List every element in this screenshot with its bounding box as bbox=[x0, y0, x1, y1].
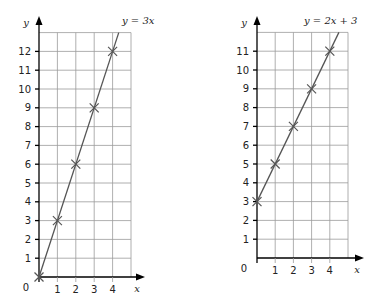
y-tick-label: 6 bbox=[25, 159, 31, 170]
y-tick-label: 6 bbox=[243, 140, 249, 151]
graph-y-equals-3x: 12341234567891011120yxy = 3x bbox=[18, 15, 154, 295]
y-axis-label: y bbox=[240, 17, 247, 28]
y-tick-label: 4 bbox=[25, 196, 31, 207]
x-tick-label: 4 bbox=[327, 265, 333, 276]
equation-label: y = 3x bbox=[121, 15, 155, 26]
grid bbox=[39, 33, 131, 277]
y-tick-label: 9 bbox=[25, 102, 31, 113]
x-tick-label: 1 bbox=[54, 284, 60, 295]
x-axis-label: x bbox=[134, 283, 140, 294]
y-tick-label: 2 bbox=[25, 234, 31, 245]
y-tick-label: 8 bbox=[243, 102, 249, 113]
x-tick-label: 4 bbox=[109, 284, 115, 295]
origin-label: 0 bbox=[23, 282, 29, 293]
x-tick-label: 3 bbox=[91, 284, 97, 295]
y-tick-label: 5 bbox=[243, 159, 249, 170]
x-axis-arrow-icon bbox=[136, 274, 145, 281]
x-tick-label: 2 bbox=[290, 265, 296, 276]
y-tick-label: 8 bbox=[25, 121, 31, 132]
y-tick-label: 10 bbox=[18, 84, 31, 95]
x-tick-label: 3 bbox=[308, 265, 314, 276]
y-tick-label: 12 bbox=[18, 46, 31, 57]
equation-label: y = 2x + 3 bbox=[303, 15, 358, 26]
y-tick-label: 10 bbox=[236, 65, 249, 76]
chart-canvas: 12341234567891011120yxy = 3x 12341234567… bbox=[0, 0, 372, 304]
y-axis-label: y bbox=[22, 17, 29, 28]
x-axis-arrow-icon bbox=[355, 255, 364, 262]
x-tick-label: 1 bbox=[272, 265, 278, 276]
y-tick-label: 7 bbox=[25, 140, 31, 151]
grid bbox=[257, 32, 348, 258]
y-tick-label: 11 bbox=[18, 65, 31, 76]
graph-y-equals-2x-plus-3: 123412345678910110yxy = 2x + 3 bbox=[236, 15, 364, 276]
y-tick-label: 5 bbox=[25, 178, 31, 189]
x-axis-label: x bbox=[354, 264, 360, 275]
y-tick-label: 1 bbox=[25, 253, 31, 264]
y-tick-label: 1 bbox=[243, 234, 249, 245]
origin-label: 0 bbox=[241, 263, 247, 274]
y-tick-label: 2 bbox=[243, 215, 249, 226]
y-tick-label: 9 bbox=[243, 83, 249, 94]
y-tick-label: 3 bbox=[25, 215, 31, 226]
plot-line bbox=[39, 33, 119, 277]
y-axis-arrow-icon bbox=[254, 16, 261, 25]
plot-line bbox=[257, 32, 339, 201]
y-tick-label: 11 bbox=[236, 46, 249, 57]
y-tick-label: 3 bbox=[243, 196, 249, 207]
y-tick-label: 7 bbox=[243, 121, 249, 132]
y-tick-label: 4 bbox=[243, 177, 249, 188]
x-tick-label: 2 bbox=[73, 284, 79, 295]
y-axis-arrow-icon bbox=[36, 16, 43, 25]
